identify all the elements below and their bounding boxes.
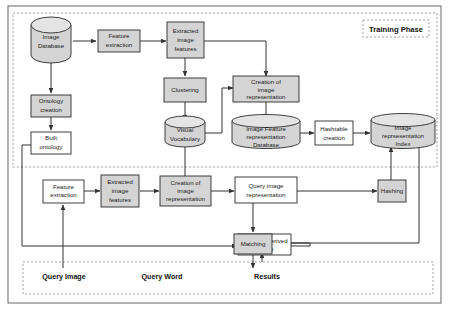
node-creation-of-image-representation-top[interactable]: Creation of image representation: [233, 76, 299, 102]
node-hashtable-creation[interactable]: Hashtable creation: [315, 121, 353, 145]
svg-text:extraction: extraction: [50, 191, 76, 198]
svg-text:extraction: extraction: [106, 41, 132, 48]
node-ontology-creation[interactable]: Ontology creation: [31, 95, 71, 117]
node-creation-of-image-representation-bottom[interactable]: Creation of image representation: [160, 176, 211, 206]
svg-text:image: image: [177, 187, 194, 194]
svg-text:features: features: [109, 196, 131, 203]
svg-text:Database: Database: [253, 141, 280, 148]
node-image-feature-representation-database[interactable]: Image Feature representation Database: [232, 115, 300, 149]
svg-text:Visual: Visual: [177, 126, 194, 133]
svg-text:Index: Index: [396, 140, 411, 147]
svg-text:image: image: [258, 86, 275, 93]
svg-text:Image: Image: [395, 124, 413, 131]
node-image-database[interactable]: Image Database: [31, 17, 71, 63]
node-query-image-representation[interactable]: Query image representation: [235, 177, 297, 203]
svg-text:reprsesentation: reprsesentation: [382, 132, 424, 139]
svg-text:Feature: Feature: [53, 183, 75, 190]
edge-extractedfeatures-to-creationrep: [204, 41, 266, 76]
svg-text:Extracted: Extracted: [173, 27, 199, 34]
svg-text:creation: creation: [323, 134, 345, 141]
svg-text:representation: representation: [247, 133, 286, 140]
outer-frame: [8, 6, 441, 303]
svg-text:Query image: Query image: [249, 182, 284, 189]
io-label-query-word: Query Word: [141, 272, 182, 281]
node-built-ontology[interactable]: Built ontology: [31, 132, 71, 154]
svg-text:representation: representation: [166, 195, 205, 202]
node-extracted-image-features-top[interactable]: Extracted image features: [167, 22, 204, 58]
node-visual-vocabulary[interactable]: Visual Vocabulary: [165, 116, 205, 147]
svg-text:Creation of: Creation of: [171, 179, 201, 186]
io-label-results: Results: [254, 272, 280, 281]
svg-text:image: image: [112, 187, 129, 194]
svg-text:Ontology: Ontology: [39, 97, 64, 104]
svg-text:creation: creation: [40, 106, 62, 113]
edge-visualvocabulary-to-creationrep: [205, 88, 233, 133]
training-phase-label: Training Phase: [369, 25, 423, 34]
node-clustering[interactable]: Clustering: [164, 78, 206, 102]
svg-text:Database: Database: [38, 42, 65, 49]
svg-text:Image: Image: [43, 33, 61, 40]
node-hashing[interactable]: Hashing: [378, 180, 406, 202]
diagram-canvas: Training Phase: [0, 0, 449, 309]
svg-text:Built: Built: [45, 134, 57, 141]
svg-text:features: features: [174, 45, 196, 52]
node-matching[interactable]: Matching: [234, 234, 272, 254]
node-feature-extraction-bottom[interactable]: Feature extraction: [43, 180, 84, 203]
svg-text:representation: representation: [247, 93, 286, 100]
node-extracted-image-features-bottom[interactable]: Extracted image features: [101, 175, 139, 207]
svg-text:Creation of: Creation of: [251, 78, 281, 85]
svg-text:image: image: [177, 36, 194, 43]
node-feature-extraction-top[interactable]: Feature extraction: [98, 30, 140, 52]
svg-text:representation: representation: [247, 191, 286, 198]
svg-text:Hashing: Hashing: [381, 187, 403, 194]
svg-text:Hashtable: Hashtable: [320, 125, 348, 132]
io-label-query-image: Query Image: [42, 272, 86, 281]
svg-text:Feature: Feature: [108, 32, 130, 39]
svg-text:Vocabulary: Vocabulary: [170, 135, 201, 142]
flow-diagram: Training Phase: [0, 0, 449, 309]
svg-text:Clustering: Clustering: [171, 86, 198, 93]
svg-text:Image Feature: Image Feature: [246, 125, 286, 132]
svg-text:ontology: ontology: [39, 143, 63, 150]
svg-text:Extracted: Extracted: [107, 178, 133, 185]
node-image-representation-index[interactable]: Image reprsesentation Index: [371, 114, 435, 149]
svg-text:Matching: Matching: [241, 240, 266, 247]
